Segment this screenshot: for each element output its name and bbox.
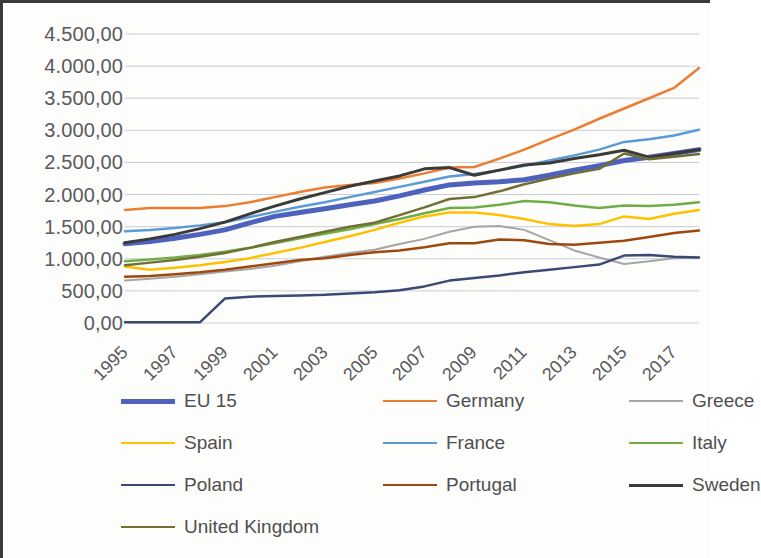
legend-item-spain[interactable]: Spain [121,433,233,453]
legend-item-label: Greece [692,391,754,411]
legend-item-label: Sweden [692,475,761,495]
legend-color-swatch [629,484,683,487]
legend-item-label: EU 15 [184,391,237,411]
y-axis-tick-label: 2.000,00 [11,183,123,206]
legend-color-swatch [121,526,175,528]
y-axis-tick-label: 4.000,00 [11,55,123,78]
legend-item-label: Spain [184,433,233,453]
chart-legend: EU 15GermanyGreeceSpainFranceItalyPoland… [121,383,701,543]
series-lines [125,68,699,322]
legend-item-label: Germany [446,391,524,411]
y-axis-tick-label: 500,00 [11,279,123,302]
y-axis-tick-label: 1.000,00 [11,247,123,270]
legend-item-germany[interactable]: Germany [383,391,524,411]
legend-color-swatch [121,399,175,404]
legend-item-label: Poland [184,475,243,495]
y-axis-labels: 4.500,004.000,003.500,003.000,002.500,00… [7,3,123,343]
legend-color-swatch [383,484,437,486]
legend-item-label: Italy [692,433,727,453]
legend-item-label: Portugal [446,475,517,495]
x-axis-labels: 1995199719992001200320052007200920112013… [3,321,713,383]
legend-item-poland[interactable]: Poland [121,475,243,495]
legend-item-label: United Kingdom [184,517,319,537]
y-axis-tick-label: 3.500,00 [11,87,123,110]
legend-color-swatch [121,484,175,486]
gridlines [125,34,699,323]
legend-item-france[interactable]: France [383,433,505,453]
legend-item-italy[interactable]: Italy [629,433,727,453]
series-line-germany [125,68,699,210]
legend-color-swatch [383,442,437,444]
legend-color-swatch [629,400,683,402]
y-axis-tick-label: 3.000,00 [11,119,123,142]
legend-color-swatch [629,442,683,444]
legend-item-portugal[interactable]: Portugal [383,475,517,495]
y-axis-tick-label: 2.500,00 [11,151,123,174]
y-axis-tick-label: 4.500,00 [11,23,123,46]
legend-item-sweden[interactable]: Sweden [629,475,761,495]
legend-item-greece[interactable]: Greece [629,391,754,411]
legend-item-eu-15[interactable]: EU 15 [121,391,237,411]
legend-color-swatch [383,400,437,402]
y-axis-tick-label: 1.500,00 [11,215,123,238]
series-line-poland [125,255,699,322]
series-line-eu-15 [125,150,699,244]
legend-item-united-kingdom[interactable]: United Kingdom [121,517,319,537]
legend-item-label: France [446,433,505,453]
legend-color-swatch [121,442,175,444]
